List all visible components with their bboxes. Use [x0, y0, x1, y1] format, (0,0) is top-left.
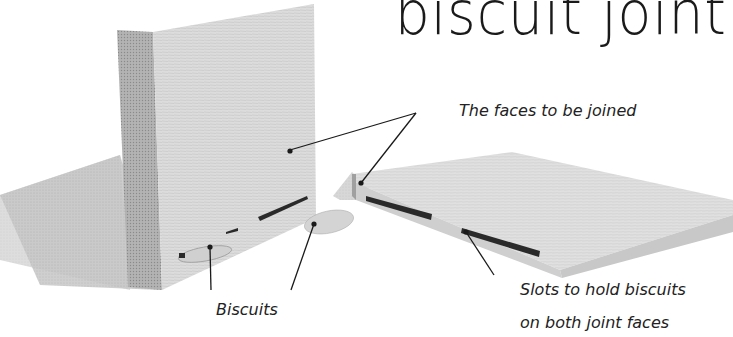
- label-slots-line1: Slots to hold biscuits: [520, 280, 686, 299]
- diagram-title: biscuit joint: [395, 0, 727, 48]
- label-faces-to-be-joined: The faces to be joined: [459, 101, 636, 120]
- biscuit-joint-diagram: biscuit joint The faces to be joined Bis…: [0, 0, 733, 337]
- vertical-block-face: [153, 4, 316, 290]
- label-biscuits: Biscuits: [216, 300, 278, 319]
- label-slots-line2: on both joint faces: [520, 313, 669, 332]
